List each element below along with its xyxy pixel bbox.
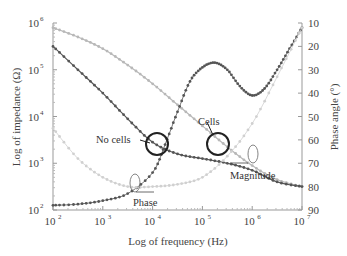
y-tick-label: 10 [28, 64, 40, 76]
x-axis-ticks: 102103104105106107 [45, 206, 312, 227]
svg-text:2: 2 [58, 213, 62, 221]
svg-text:2: 2 [40, 202, 44, 210]
series-magnitude-cells [52, 45, 304, 188]
y-axis-title: Log of impedance (Ω) [10, 68, 23, 167]
y2-tick-label: 80 [308, 181, 320, 193]
y2-tick-label: 90 [308, 204, 320, 216]
impedance-chart: 102103104105106107 106105104103102 10203… [0, 0, 347, 256]
svg-text:3: 3 [108, 213, 112, 221]
y2-tick-label: 30 [308, 64, 320, 76]
x-tick-label: 10 [244, 215, 256, 227]
svg-text:5: 5 [207, 213, 211, 221]
y-tick-label: 10 [28, 204, 40, 216]
series-phase-no-cells [52, 26, 304, 189]
y2-tick-label: 10 [308, 17, 320, 29]
x-tick-label: 10 [294, 215, 306, 227]
y2-tick-label: 20 [308, 40, 320, 52]
svg-text:4: 4 [40, 109, 44, 117]
x-axis-title: Log of frequency (Hz) [128, 235, 228, 248]
y2-tick-label: 40 [308, 87, 320, 99]
svg-text:6: 6 [257, 213, 261, 221]
no-cells-label: No cells [96, 134, 131, 145]
y-tick-label: 10 [28, 157, 40, 169]
plot-frame [53, 23, 302, 210]
x-tick-label: 10 [194, 215, 206, 227]
svg-text:4: 4 [158, 213, 162, 221]
y2-tick-label: 70 [308, 157, 320, 169]
x-tick-label: 10 [94, 215, 106, 227]
y2-tick-label: 60 [308, 134, 320, 146]
series-magnitude-no-cells [52, 26, 304, 188]
y2-axis-title: Phase angle (°) [328, 83, 341, 150]
y-tick-label: 10 [28, 111, 40, 123]
magnitude-marker [248, 145, 258, 163]
y2-tick-label: 50 [308, 111, 320, 123]
svg-text:3: 3 [40, 155, 44, 163]
x-tick-label: 10 [45, 215, 57, 227]
cells-label: Cells [198, 116, 220, 127]
phase-label: Phase [133, 197, 158, 208]
svg-text:6: 6 [40, 15, 44, 23]
svg-text:5: 5 [40, 62, 44, 70]
y-tick-label: 10 [28, 17, 40, 29]
cells-circle [207, 133, 229, 155]
x-tick-label: 10 [144, 215, 156, 227]
magnitude-label: Magnitude [230, 170, 276, 181]
